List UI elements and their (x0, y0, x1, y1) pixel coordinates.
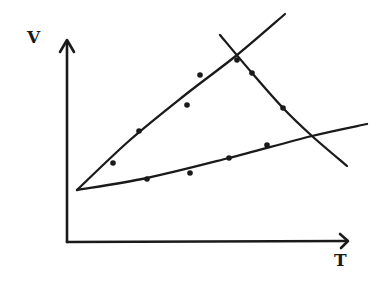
data-point (226, 155, 232, 161)
data-point (280, 105, 286, 111)
y-axis-label: V (27, 27, 40, 47)
sketch-chart (0, 0, 390, 281)
data-point (144, 176, 150, 182)
data-point (197, 72, 203, 78)
data-point (184, 102, 190, 108)
data-point (249, 70, 255, 76)
data-point (136, 128, 142, 134)
axes (60, 40, 348, 248)
fit-lines (77, 14, 367, 190)
lower-branch-line (77, 124, 367, 190)
data-point (264, 142, 270, 148)
data-point (110, 160, 116, 166)
x-axis-label: T (334, 250, 347, 270)
data-point (234, 57, 240, 63)
x-axis (67, 241, 346, 242)
data-point (187, 170, 193, 176)
upper-branch-line (77, 14, 285, 190)
data-points (110, 57, 286, 182)
